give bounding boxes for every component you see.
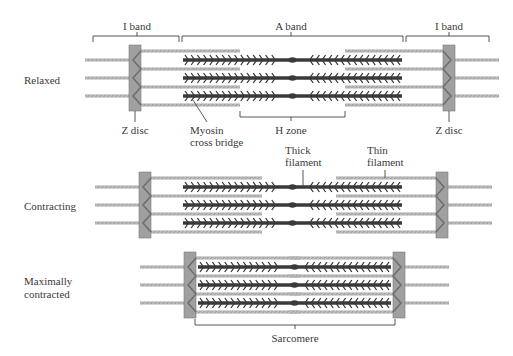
thick-filament-label-line2: filament — [285, 156, 322, 168]
contracting-z-disc-left — [139, 172, 151, 238]
h-zone-bracket — [240, 111, 345, 117]
state-label-contracting: Contracting — [24, 200, 76, 212]
myosin-pointer — [193, 100, 207, 122]
i-band-right-label: I band — [435, 20, 463, 32]
sarcomere-diagram — [0, 0, 513, 356]
state-label-relaxed: Relaxed — [24, 74, 60, 86]
z-disc-right-label: Z disc — [435, 124, 462, 136]
i-band-left-label: I band — [123, 20, 151, 32]
a-band-label: A band — [275, 20, 306, 32]
maximally-z-disc-right — [393, 252, 405, 318]
h-zone-label: H zone — [275, 124, 306, 136]
sarcomere-label: Sarcomere — [271, 332, 318, 344]
relaxed-z-disc-left — [129, 45, 141, 111]
sarcomere-bracket — [195, 319, 395, 325]
z-disc-left-label: Z disc — [121, 124, 148, 136]
thin-filament-label-line1: Thin — [367, 144, 388, 156]
state-label-maximally-line2: contracted — [24, 288, 70, 300]
myosin-label-line2: cross bridge — [190, 136, 243, 148]
state-label-maximally-line1: Maximally — [24, 275, 72, 287]
thin-filament-label-line2: filament — [367, 156, 404, 168]
maximally-z-disc-left — [184, 252, 196, 318]
a-band-bracket — [182, 36, 403, 42]
i-band-right-bracket — [406, 36, 489, 42]
i-band-left-bracket — [93, 36, 179, 42]
contracting-z-disc-right — [436, 172, 448, 238]
thick-filament-label-line1: Thick — [285, 144, 311, 156]
relaxed-z-disc-right — [443, 45, 455, 111]
myosin-label-line1: Myosin — [190, 124, 224, 136]
